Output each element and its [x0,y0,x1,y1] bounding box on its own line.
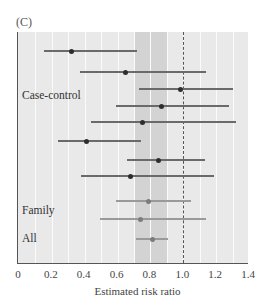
confidence-interval [81,175,214,176]
point-estimate [178,87,183,92]
gridline [118,32,119,263]
confidence-interval [91,121,236,122]
forest-plot-area: Case-controlFamilyAll [17,32,248,264]
confidence-interval [139,88,233,89]
confidence-interval [127,159,204,160]
confidence-interval [80,71,207,72]
gridline [233,32,234,263]
x-tick-label: 0.2 [44,268,58,280]
x-tick-label: 0 [15,268,21,280]
x-tick-label: 0.8 [143,268,157,280]
gridline [134,32,135,263]
gridline [167,32,168,263]
x-tick-label: 0.6 [110,268,124,280]
gridline [216,32,217,263]
x-tick-label: 1.0 [175,268,189,280]
gridline [68,32,69,263]
point-estimate [138,217,143,222]
group-label: Family [22,204,55,216]
confidence-interval [116,105,229,106]
gridline [150,32,151,263]
gridline [85,32,86,263]
group-label: Case-control [22,89,81,101]
point-estimate [140,120,145,125]
group-label: All [22,232,37,244]
gridline [35,32,36,263]
confidence-interval [116,200,192,201]
point-estimate [128,174,133,179]
x-tick-label: 1.4 [241,268,255,280]
confidence-interval [58,140,140,141]
point-estimate [123,70,128,75]
point-estimate [150,237,155,242]
x-tick-label: 0.4 [77,268,91,280]
gridline [101,32,102,263]
point-estimate [156,158,161,163]
gridline [200,32,201,263]
point-estimate [69,49,74,54]
panel-label: (C) [16,15,32,30]
x-tick-label: 1.2 [208,268,222,280]
confidence-interval [44,50,138,51]
point-estimate [146,199,151,204]
x-axis-label: Estimated risk ratio [0,285,265,297]
confidence-interval [100,218,207,219]
point-estimate [84,139,89,144]
gridline [52,32,53,263]
reference-line-1 [183,32,184,263]
